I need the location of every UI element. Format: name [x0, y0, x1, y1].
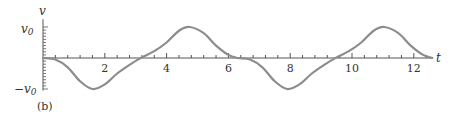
- velocity-chart: 24681012 v t v0 −v0 (b): [0, 0, 455, 116]
- panel-label: (b): [37, 100, 53, 113]
- x-tick-labels: 24681012: [101, 62, 421, 75]
- x-tick-label: 12: [407, 62, 421, 75]
- x-tick-label: 6: [225, 62, 232, 75]
- x-tick-label: 4: [163, 62, 170, 75]
- x-tick-label: 2: [101, 62, 108, 75]
- x-tick-label: 10: [345, 62, 359, 75]
- y-axis-label: v: [39, 4, 46, 18]
- x-axis-label: t: [436, 51, 441, 65]
- x-tick-label: 8: [287, 62, 294, 75]
- v0-tick-label: v0: [21, 22, 34, 37]
- neg-v0-tick-label: −v0: [14, 82, 37, 97]
